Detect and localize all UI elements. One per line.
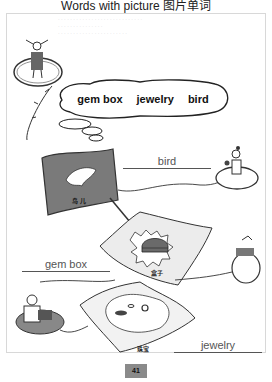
girl-on-flower-right-illustration xyxy=(232,236,260,283)
word-bank-item: gem box xyxy=(77,93,122,105)
answer-field-gem-box[interactable]: gem box xyxy=(22,258,110,272)
answer-line xyxy=(174,352,262,353)
word-bank-item: bird xyxy=(188,93,209,105)
word-bank-bubble: gem box jewelry bird xyxy=(58,82,228,116)
chinese-label-jewelry: 珠宝 xyxy=(137,344,149,353)
answer-text: jewelry xyxy=(201,339,235,351)
chinese-label-bird: 鸟 儿 xyxy=(72,196,86,205)
answer-text: gem box xyxy=(45,258,87,270)
word-bank-item: jewelry xyxy=(137,93,174,105)
girl-with-bird-illustration xyxy=(216,146,258,189)
boy-with-bag-illustration xyxy=(16,295,64,334)
chinese-label-box: 盒子 xyxy=(151,268,163,277)
answer-field-jewelry[interactable]: jewelry xyxy=(174,339,262,353)
answer-field-bird[interactable]: bird xyxy=(123,155,211,169)
answer-line xyxy=(123,168,211,169)
page-number-badge: 41 xyxy=(125,364,147,378)
answer-line xyxy=(22,271,110,272)
girl-on-flower-illustration xyxy=(14,40,62,86)
bird-flag-illustration xyxy=(42,149,130,222)
answer-text: bird xyxy=(158,155,176,167)
illustration-layer xyxy=(0,0,272,382)
